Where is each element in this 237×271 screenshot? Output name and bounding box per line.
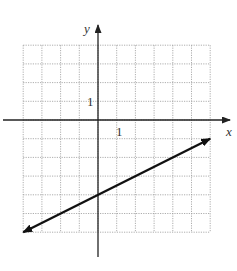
y-axis-label: y — [82, 21, 90, 36]
x-tick-label: 1 — [116, 124, 123, 139]
y-tick-label: 1 — [87, 94, 94, 109]
x-axis-label: x — [225, 124, 232, 139]
coordinate-graph: xy11 — [0, 0, 237, 271]
